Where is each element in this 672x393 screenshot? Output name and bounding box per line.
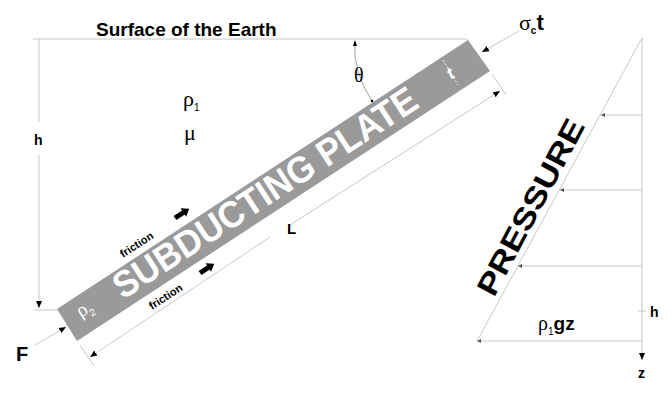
depth-h-label: h [34, 132, 43, 148]
angle-theta-label: θ [354, 64, 364, 86]
force-f-label: F [16, 343, 28, 365]
mantle-viscosity: μ [184, 120, 196, 145]
plate-label: SUBDUCTING PLATE [105, 79, 425, 307]
force-f-arrow [35, 327, 66, 345]
pressure-formula: ρ1gz [538, 312, 575, 337]
stress-arrow [482, 31, 519, 52]
pressure-z-axis-label: z [638, 365, 645, 381]
pressure-depth-h-label: h [650, 304, 659, 320]
pressure-label: PRESSURE [470, 113, 591, 301]
mantle-density: ρ1 [183, 86, 200, 113]
stress-label: σct [519, 10, 544, 36]
title-surface: Surface of the Earth [96, 19, 277, 40]
length-l-label: L [287, 220, 296, 237]
subduction-diagram: Surface of the Earth ρ1 μ h θ σct t SUBD… [0, 0, 672, 393]
